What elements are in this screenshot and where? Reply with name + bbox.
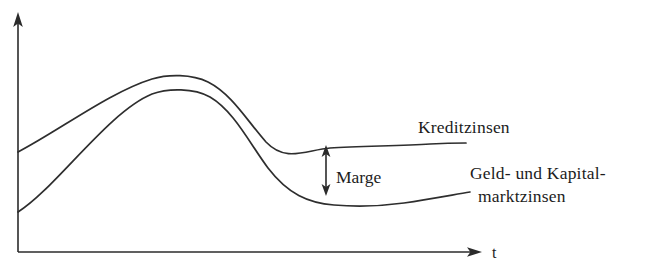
diagram-canvas: t Marge Kreditzinsen Geld- und Kapital- … bbox=[0, 0, 646, 269]
series-label-geldmarkt-line2: marktzinsen bbox=[478, 186, 566, 206]
marge-annotation: Marge bbox=[322, 145, 382, 196]
interest-rate-diagram: t Marge Kreditzinsen Geld- und Kapital- … bbox=[0, 0, 646, 269]
time-axis: t bbox=[18, 244, 497, 261]
marge-label: Marge bbox=[336, 167, 382, 187]
curve-kreditzinsen bbox=[18, 76, 466, 154]
series-label-kreditzinsen: Kreditzinsen bbox=[418, 117, 510, 137]
time-axis-label: t bbox=[492, 244, 497, 261]
series-label-geldmarkt-line1: Geld- und Kapital- bbox=[470, 163, 606, 183]
curve-geld-und-kapitalmarktzinsen bbox=[18, 90, 470, 212]
value-axis bbox=[13, 12, 23, 252]
